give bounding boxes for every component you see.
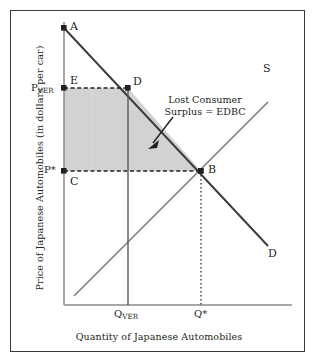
point-marker-c [61,168,67,174]
supply-curve-label: S [263,63,271,74]
point-marker-e [61,85,67,91]
point-marker-b [198,168,204,174]
price-tick-pstar: P* [44,165,56,175]
annotation-line-2: Surplus = EDBC [150,106,260,118]
point-marker-a [61,25,67,31]
point-marker-d [125,85,131,91]
x-axis-title: Quantity of Japanese Automobiles [0,331,318,342]
quantity-tick-qver: QVER [114,309,138,319]
annotation-line-1: Lost Consumer [150,94,260,106]
point-label-b: B [208,164,216,175]
demand-curve-label: D [268,248,277,259]
quantity-tick-qver-sub: VER [122,312,138,321]
diagram-canvas [0,0,318,364]
quantity-tick-qstar: Q* [194,309,207,319]
y-axis-title: Price of Japanese Automobiles (in dollar… [34,61,45,291]
point-label-d: D [133,76,142,87]
point-label-e: E [70,75,78,86]
lost-surplus-annotation: Lost Consumer Surplus = EDBC [150,94,260,118]
price-tick-pver: PVER [31,83,54,93]
point-label-c: C [70,176,78,187]
price-tick-pver-sub: VER [38,86,54,95]
point-label-a: A [70,21,78,32]
quantity-tick-qver-base: Q [114,308,122,319]
price-tick-pver-base: P [31,82,38,93]
